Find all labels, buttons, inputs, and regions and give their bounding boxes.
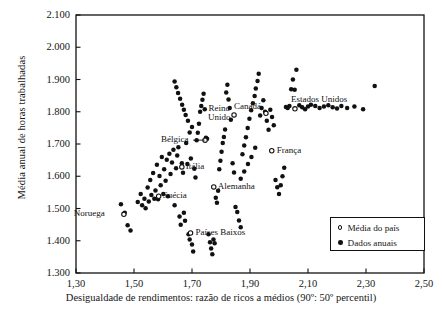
data-point-annual [224, 90, 229, 95]
data-point-annual [183, 219, 188, 224]
data-point-annual [294, 68, 299, 73]
data-point-annual [223, 127, 228, 132]
y-tick-label: 1.700 [22, 139, 70, 149]
data-point-annual [125, 223, 129, 228]
data-point-annual [186, 119, 191, 124]
legend-item: Média do país [331, 220, 424, 235]
data-point-annual [178, 222, 183, 227]
data-point-annual [171, 148, 176, 153]
data-point-annual [292, 88, 297, 93]
y-tick-label: 1.500 [22, 204, 70, 214]
x-tick-label: 1,50 [114, 279, 154, 289]
data-point-annual [147, 199, 152, 204]
x-axis-title: Desigualdade de rendimentos: razão de ri… [0, 292, 442, 303]
data-point-annual [254, 86, 258, 91]
y-tick-label: 2.000 [22, 42, 70, 52]
data-point-annual [136, 200, 141, 205]
data-point-country-mean [264, 111, 268, 115]
legend-label: Dados anuais [348, 238, 397, 248]
data-point-annual [211, 237, 216, 242]
legend-label: Média do país [347, 223, 399, 233]
data-point-annual [252, 94, 257, 99]
country-label-it-lia: Itália [186, 162, 205, 172]
data-point-annual [280, 174, 285, 179]
y-axis-title: Média anual de horas trabalhadas [16, 3, 27, 253]
data-point-annual [128, 228, 133, 233]
data-point-annual [233, 205, 238, 210]
data-point-annual [245, 126, 250, 131]
data-point-annual [197, 121, 202, 126]
data-point-annual [212, 241, 217, 246]
data-point-annual [265, 119, 270, 124]
data-point-country-mean [188, 231, 192, 235]
data-point-annual [142, 197, 147, 202]
data-point-annual [317, 106, 322, 111]
legend-item: Dados anuais [331, 235, 424, 250]
data-point-annual [140, 203, 145, 208]
data-point-annual [182, 210, 187, 215]
data-point-annual [361, 107, 366, 112]
x-tick-label: 1,70 [172, 279, 212, 289]
data-point-annual [199, 104, 204, 109]
data-point-annual [149, 193, 154, 198]
data-point-annual [215, 200, 220, 205]
y-tick-label: 2.100 [22, 10, 70, 20]
data-point-annual [225, 82, 230, 87]
data-point-annual [339, 104, 344, 109]
data-point-country-mean [180, 165, 184, 169]
data-point-annual [249, 155, 254, 160]
data-point-country-mean [232, 113, 236, 117]
country-label-alemanha: Alemanha [218, 182, 255, 192]
data-point-annual [119, 202, 124, 207]
data-point-annual [240, 152, 245, 157]
x-tick-label: 1,30 [56, 279, 96, 289]
data-point-annual [214, 196, 219, 201]
y-tick-label: 1.900 [22, 75, 70, 85]
data-point-annual [270, 115, 275, 120]
data-point-annual [180, 102, 185, 107]
data-point-annual [313, 104, 318, 109]
data-point-annual [174, 166, 179, 171]
data-point-annual [181, 170, 186, 175]
data-point-annual [190, 125, 195, 130]
data-point-annual [210, 252, 215, 256]
data-point-annual [282, 166, 287, 171]
country-label-fran-a: França [277, 146, 302, 156]
data-point-annual [291, 77, 296, 82]
data-point-annual [226, 97, 231, 102]
data-point-annual [322, 104, 327, 109]
country-label-noruega: Noruega [74, 209, 105, 219]
country-label-canad-: Canadá [234, 102, 261, 112]
data-point-annual [191, 249, 196, 254]
data-point-annual [246, 162, 251, 167]
x-tick-label: 2,30 [346, 279, 386, 289]
data-point-annual [145, 185, 150, 190]
data-point-annual [170, 160, 175, 165]
data-point-annual [208, 240, 213, 245]
data-point-annual [352, 104, 357, 109]
y-tick-label: 1.800 [22, 107, 70, 117]
data-point-annual [157, 174, 162, 179]
country-label-b-lgica: Bélgica [161, 135, 189, 145]
data-point-annual [222, 135, 227, 140]
data-point-annual [138, 192, 143, 197]
data-point-annual [330, 105, 335, 110]
country-label-pa-ses-baixos: Países Baixos [196, 228, 246, 238]
filled-circle-icon [338, 240, 343, 245]
data-point-annual [203, 107, 208, 112]
legend: Média do paísDados anuais [330, 217, 425, 251]
data-point-country-mean [122, 212, 126, 216]
data-point-annual [232, 170, 237, 175]
data-point-annual [190, 242, 195, 247]
data-point-annual [178, 97, 183, 102]
data-point-annual [217, 167, 222, 172]
data-point-annual [278, 183, 283, 188]
data-point-annual [237, 218, 242, 223]
data-point-annual [253, 146, 258, 151]
data-point-annual [168, 172, 173, 177]
country-label-estados-unidos: Estados Unidos [291, 95, 347, 105]
y-tick-label: 1.600 [22, 171, 70, 181]
data-point-annual [172, 203, 177, 208]
data-point-annual [235, 210, 240, 215]
data-point-annual [176, 91, 181, 96]
